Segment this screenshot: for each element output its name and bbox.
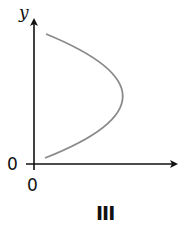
y-axis-label: y — [19, 2, 29, 22]
y-origin-label: 0 — [7, 154, 18, 174]
figure-caption: III — [96, 202, 114, 224]
parabola-curve — [45, 34, 123, 158]
diagram-canvas — [0, 0, 185, 230]
x-origin-label: 0 — [27, 175, 38, 195]
